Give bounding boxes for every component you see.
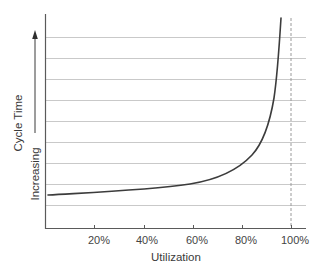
y-axis-prefix: Increasing [29,147,41,200]
x-tick-label-20: 20% [88,234,110,246]
x-axis-title: Utilization [151,251,201,263]
arrow-up-icon [32,30,38,133]
x-tick-label-80: 80% [235,234,257,246]
cycle-time-utilization-chart: 20% 40% 60% 80% 100% Utilization Cycle T… [0,0,322,270]
x-tick-label-100: 100% [281,234,309,246]
x-tick-label-40: 40% [136,234,158,246]
x-ticks [95,225,292,228]
x-tick-label-60: 60% [186,234,208,246]
cycle-time-curve [48,18,281,195]
y-axis-title: Cycle Time [12,95,24,152]
gridlines [45,38,306,206]
